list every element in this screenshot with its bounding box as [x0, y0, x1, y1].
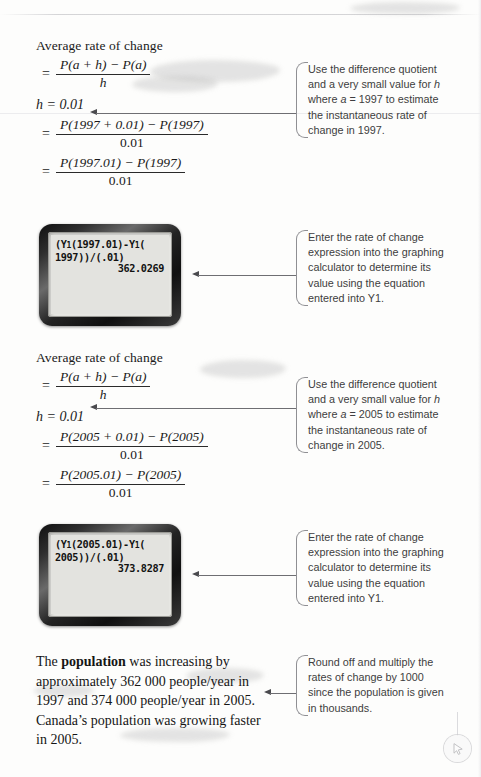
note-line: Enter the rate of change: [308, 230, 472, 245]
leader-line-calc-2005: [198, 575, 296, 576]
graphing-calculator-2005[interactable]: (Y1(2005.01)-Y1( 2005))/(.01)373.8287: [39, 524, 181, 626]
calc-token: (1997.01)-Y: [71, 239, 135, 250]
note-variable-h: h: [434, 78, 440, 90]
note-line: entered into Y1.: [308, 591, 472, 606]
calculator-bezel-inner: (Y1(1997.01)-Y1( 1997))/(.01)362.0269: [48, 232, 172, 317]
callout-brace: [296, 230, 308, 306]
callout-brace: [296, 62, 308, 138]
fraction-step1: P(2005 + 0.01) − P(2005) 0.01: [56, 430, 208, 462]
calculator-answer-1997: 362.0269: [55, 263, 166, 275]
note-line: rates of change by 1000: [308, 670, 472, 685]
equation-step1: = P(2005 + 0.01) − P(2005) 0.01: [36, 430, 286, 462]
fraction-step2: P(1997.01) − P(1997) 0.01: [56, 156, 185, 188]
conclusion-paragraph: The population was increasing by approxi…: [36, 652, 268, 750]
note-line: since the population is given: [308, 685, 472, 700]
fraction-general: P(a + h) − P(a) h: [56, 370, 150, 402]
calculator-screen-1997: (Y1(1997.01)-Y1( 1997))/(.01)362.0269: [51, 235, 169, 314]
note-line: where a = 2005 to estimate: [308, 407, 472, 422]
leader-line-2005: [96, 408, 296, 409]
calc-entry-text: (Y1(1997.01)-Y1(: [55, 239, 145, 250]
note-text: where: [308, 93, 340, 105]
note-line: and a very small value for h: [308, 392, 472, 407]
note-line: calculator to determine its: [308, 560, 472, 575]
mouse-pointer-icon: [444, 735, 471, 762]
leader-line-calc-1997: [198, 275, 296, 276]
work-block-2005: Average rate of change = P(a + h) − P(a)…: [36, 350, 286, 500]
fraction-step1: P(1997 + 0.01) − P(1997) 0.01: [56, 118, 208, 150]
note-line: in thousands.: [308, 701, 472, 716]
equals-sign: =: [36, 438, 56, 454]
equals-sign: =: [36, 164, 56, 180]
fraction-numerator: P(1997 + 0.01) − P(1997): [56, 118, 208, 134]
fraction-denominator: 0.01: [116, 447, 148, 463]
callout-brace: [296, 655, 308, 716]
note-line: expression into the graphing: [308, 245, 472, 260]
note-text: = 1997 to estimate: [346, 93, 438, 105]
equals-sign: =: [36, 378, 56, 394]
fraction-denominator: 0.01: [116, 135, 148, 151]
heading-average-rate-of-change: Average rate of change: [36, 38, 286, 54]
scan-artifact-line-top: [0, 14, 481, 15]
callout-note-1997: Use the difference quotient and a very s…: [296, 62, 472, 138]
note-line: calculator to determine its: [308, 260, 472, 275]
fraction-denominator: 0.01: [105, 173, 137, 189]
calculator-screen-2005: (Y1(2005.01)-Y1( 2005))/(.01)373.8287: [51, 535, 169, 614]
conclusion-bold-term: population: [61, 654, 126, 669]
calc-token: (: [139, 539, 145, 550]
callout-brace: [296, 530, 308, 606]
callout-brace: [296, 377, 308, 453]
calc-token: (2005.01)-Y: [71, 539, 135, 550]
callout-note-conclusion: Round off and multiply the rates of chan…: [296, 655, 472, 716]
fraction-numerator: P(2005 + 0.01) − P(2005): [56, 430, 208, 446]
h-value-line: h = 0.01: [36, 97, 286, 113]
note-line: Use the difference quotient: [308, 377, 472, 392]
note-text: = 2005 to estimate: [346, 408, 438, 420]
leader-line-conclusion: [270, 693, 296, 694]
note-variable-h: h: [434, 393, 440, 405]
note-text: and a very small value for: [308, 78, 434, 90]
calculator-answer-2005: 373.8287: [55, 563, 166, 575]
note-line: Enter the rate of change: [308, 530, 472, 545]
equation-step2: = P(1997.01) − P(1997) 0.01: [36, 156, 286, 188]
fraction-numerator: P(a + h) − P(a): [56, 58, 150, 74]
cursor-trail-line: [457, 712, 458, 736]
fraction-numerator: P(1997.01) − P(1997): [56, 156, 185, 172]
fraction-numerator: P(2005.01) − P(2005): [56, 468, 185, 484]
callout-note-calculator-1997: Enter the rate of change expression into…: [296, 230, 472, 306]
equation-step1: = P(1997 + 0.01) − P(1997) 0.01: [36, 118, 286, 150]
h-value-line: h = 0.01: [36, 409, 286, 425]
calculator-bezel-inner: (Y1(2005.01)-Y1( 2005))/(.01)373.8287: [48, 532, 172, 617]
fraction-denominator: h: [96, 387, 111, 403]
equals-sign: =: [36, 476, 56, 492]
fraction-denominator: h: [96, 75, 111, 91]
fraction-numerator: P(a + h) − P(a): [56, 370, 150, 386]
leader-line-1997: [96, 113, 296, 114]
note-line: value using the equation: [308, 276, 472, 291]
calc-token: (Y: [55, 539, 67, 550]
note-line: and a very small value for h: [308, 77, 472, 92]
note-line: where a = 1997 to estimate: [308, 92, 472, 107]
note-line: entered into Y1.: [308, 291, 472, 306]
note-text: and a very small value for: [308, 393, 434, 405]
graphing-calculator-1997[interactable]: (Y1(1997.01)-Y1( 1997))/(.01)362.0269: [39, 224, 181, 326]
note-line: expression into the graphing: [308, 545, 472, 560]
note-line: Use the difference quotient: [308, 62, 472, 77]
equation-general: = P(a + h) − P(a) h: [36, 370, 286, 402]
note-line: value using the equation: [308, 576, 472, 591]
calc-entry-line2: 2005))/(.01): [55, 552, 124, 563]
note-text: where: [308, 408, 340, 420]
callout-note-2005: Use the difference quotient and a very s…: [296, 377, 472, 453]
heading-average-rate-of-change: Average rate of change: [36, 350, 286, 366]
equation-step2: = P(2005.01) − P(2005) 0.01: [36, 468, 286, 500]
note-line: the instantaneous rate of: [308, 108, 472, 123]
equals-sign: =: [36, 66, 56, 82]
fraction-step2: P(2005.01) − P(2005) 0.01: [56, 468, 185, 500]
calc-token: (Y: [55, 239, 67, 250]
calc-entry-line2: 1997))/(.01): [55, 252, 124, 263]
callout-note-calculator-2005: Enter the rate of change expression into…: [296, 530, 472, 606]
fraction-general: P(a + h) − P(a) h: [56, 58, 150, 90]
equation-general: = P(a + h) − P(a) h: [36, 58, 286, 90]
note-line: Round off and multiply the: [308, 655, 472, 670]
fraction-denominator: 0.01: [105, 485, 137, 501]
note-line: the instantaneous rate of: [308, 423, 472, 438]
